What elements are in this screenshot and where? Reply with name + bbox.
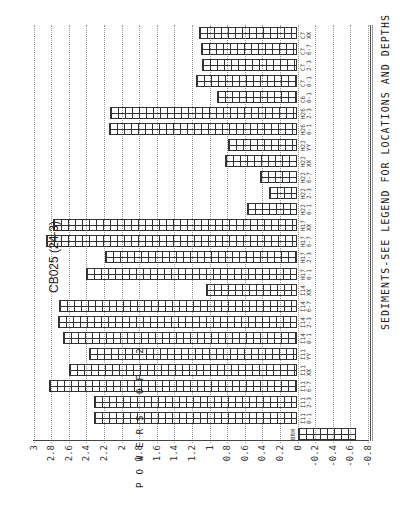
bar-i11-xx bbox=[69, 364, 298, 376]
bar-h22-2-3 bbox=[269, 187, 297, 199]
category-label: BRH bbox=[290, 429, 296, 440]
gridline bbox=[315, 25, 316, 443]
bar-h26-0-1 bbox=[109, 123, 297, 135]
category-label: H22 2-3 bbox=[300, 188, 312, 199]
bar-c7-xx bbox=[199, 27, 298, 39]
bar-brh bbox=[298, 428, 356, 440]
chart-canvas: 32.82.62.42.221.81.61.41.210.80.60.40.20… bbox=[0, 0, 400, 513]
category-label: H22 XX bbox=[300, 156, 312, 167]
frame-line bbox=[372, 25, 373, 441]
category-label: C6 0-1 bbox=[300, 92, 312, 103]
bar-h22-0-1 bbox=[247, 203, 297, 215]
bar-h17-6-7 bbox=[46, 235, 298, 247]
category-label: H17 6-7 bbox=[300, 237, 312, 248]
frame-line bbox=[370, 25, 371, 441]
bar-i11-2-3 bbox=[94, 396, 297, 408]
axis-tick-label: 1 bbox=[205, 445, 215, 475]
bar-i14-0-1 bbox=[63, 332, 297, 344]
chart-footer-note: SEDIMENTS-SEE LEGEND FOR LOCATIONS AND D… bbox=[380, 14, 391, 330]
category-label: I14 0-1 bbox=[300, 333, 312, 344]
category-label: C7 2-3 bbox=[300, 60, 312, 71]
bar-c7-2-3 bbox=[202, 59, 297, 71]
axis-tick-label: 2 bbox=[117, 445, 127, 475]
axis-tick-label: 2.2 bbox=[99, 445, 109, 475]
axis-tick-label: -0.2 bbox=[310, 445, 320, 475]
category-label: C7 0-1 bbox=[300, 76, 312, 87]
category-label: H26 2-3 bbox=[300, 108, 312, 119]
gridline bbox=[350, 25, 351, 443]
bar-i14-xx bbox=[206, 284, 298, 296]
category-label: C7 XX bbox=[300, 32, 312, 39]
bar-i14-6-7 bbox=[59, 300, 297, 312]
category-label: I14 2-3 bbox=[300, 317, 312, 328]
category-label: I11 6-7 bbox=[300, 381, 312, 392]
axis-label: POWERS OF 2 bbox=[135, 340, 145, 488]
gridline bbox=[333, 25, 334, 443]
chart-title: CB025 (24-3) bbox=[47, 221, 61, 293]
bar-c6-0-1 bbox=[217, 91, 297, 103]
gridline bbox=[368, 25, 369, 443]
axis-tick-label: 2.6 bbox=[64, 445, 74, 475]
axis-tick-label: 0.4 bbox=[257, 445, 267, 475]
category-label: C7 6-7 bbox=[300, 44, 312, 55]
bar-h26-2-3 bbox=[110, 107, 297, 119]
category-label: I11 0-1 bbox=[300, 413, 312, 424]
axis-tick-label: 1.6 bbox=[152, 445, 162, 475]
bar-i11-yy bbox=[89, 348, 298, 360]
bar-h22-6-7 bbox=[260, 171, 298, 183]
bar-i11-6-7 bbox=[49, 380, 297, 392]
axis-tick-label: 0.2 bbox=[275, 445, 285, 475]
bar-h22-xx bbox=[225, 155, 297, 167]
bar-c7-6-7 bbox=[201, 43, 298, 55]
bar-h17-xx bbox=[53, 219, 298, 231]
axis-tick-label: 0.8 bbox=[222, 445, 232, 475]
bar-h17-2-3 bbox=[105, 251, 298, 263]
axis-tick-label: 2.4 bbox=[81, 445, 91, 475]
axis-tick-label: -0.8 bbox=[363, 445, 373, 475]
category-label: I14 6-7 bbox=[300, 301, 312, 312]
category-label: I11 YY bbox=[300, 349, 312, 360]
axis-tick-label: -0.4 bbox=[328, 445, 338, 475]
category-label: I11 2-3 bbox=[300, 397, 312, 408]
category-label: I11 XX bbox=[300, 365, 312, 376]
axis-tick-label: 3 bbox=[29, 445, 39, 475]
category-label: H17 2-3 bbox=[300, 253, 312, 264]
bar-i14-2-3 bbox=[58, 316, 297, 328]
bar-h17-0-1 bbox=[86, 268, 297, 280]
axis-tick-label: 1.4 bbox=[169, 445, 179, 475]
bar-c7-0-1 bbox=[196, 75, 297, 87]
category-label: H17 XX bbox=[300, 221, 312, 232]
category-label: H22 6-7 bbox=[300, 172, 312, 183]
category-label: H22 YY bbox=[300, 140, 312, 151]
category-label: H26 0-1 bbox=[300, 124, 312, 135]
category-label: I14 XX bbox=[300, 285, 312, 296]
bar-h22-yy bbox=[228, 139, 298, 151]
axis-tick-label: 0 bbox=[293, 445, 303, 475]
axis-tick-label: 1.2 bbox=[187, 445, 197, 475]
axis-tick-label: -0.6 bbox=[345, 445, 355, 475]
axis-tick-label: 2.8 bbox=[46, 445, 56, 475]
bar-i11-0-1 bbox=[94, 412, 297, 424]
category-label: H22 0-1 bbox=[300, 204, 312, 215]
axis-tick-label: 0.6 bbox=[240, 445, 250, 475]
gridline bbox=[34, 25, 35, 443]
category-label: H17 0-1 bbox=[300, 269, 312, 280]
value-axis bbox=[33, 440, 369, 441]
